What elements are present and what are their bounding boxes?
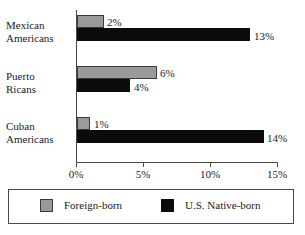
legend-label-foreign-born: Foreign-born — [64, 199, 122, 212]
legend-entry-native-born: U.S. Native-born — [161, 199, 260, 212]
category-label-line-1: Mexican — [6, 19, 74, 32]
bar-cuban-americans-native-born — [77, 130, 264, 143]
bar-puerto-ricans-foreign-born — [77, 66, 157, 79]
bar-value-cuban-americans-native-born: 14% — [267, 132, 287, 144]
x-tick-label-3: 15% — [267, 168, 287, 180]
bar-mexican-americans-foreign-born — [77, 15, 104, 28]
bar-cuban-americans-foreign-born — [77, 117, 90, 130]
x-tick-0 — [76, 162, 77, 167]
x-axis-line — [76, 162, 278, 163]
x-tick-label-1: 5% — [136, 168, 151, 180]
bar-value-puerto-ricans-foreign-born: 6% — [160, 67, 175, 79]
x-tick-1 — [143, 162, 144, 167]
category-label-mexican-americans: Mexican Americans — [6, 19, 74, 44]
x-tick-label-2: 10% — [200, 168, 220, 180]
category-label-line-1: Cuban — [6, 120, 74, 133]
x-tick-label-0: 0% — [69, 168, 84, 180]
category-label-line-2: Americans — [6, 32, 74, 45]
bar-puerto-ricans-native-born — [77, 79, 130, 92]
gray-swatch-icon — [40, 199, 53, 212]
category-label-puerto-ricans: Puerto Ricans — [6, 70, 74, 95]
legend-entry-foreign-born: Foreign-born — [40, 199, 122, 212]
category-label-cuban-americans: Cuban Americans — [6, 120, 74, 145]
x-tick-2 — [210, 162, 211, 167]
black-swatch-icon — [161, 199, 174, 212]
x-tick-3 — [277, 162, 278, 167]
chart-legend: Foreign-born U.S. Native-born — [8, 189, 294, 224]
bar-value-mexican-americans-foreign-born: 2% — [107, 16, 122, 28]
bar-chart: 0% 5% 10% 15% Mexican Americans Puerto R… — [0, 0, 305, 182]
bar-value-cuban-americans-foreign-born: 1% — [94, 118, 109, 130]
category-label-line-2: Ricans — [6, 83, 74, 96]
bar-mexican-americans-native-born — [77, 28, 250, 41]
category-label-line-2: Americans — [6, 133, 74, 146]
bar-value-puerto-ricans-native-born: 4% — [134, 81, 149, 93]
bar-value-mexican-americans-native-born: 13% — [254, 30, 274, 42]
legend-label-native-born: U.S. Native-born — [185, 199, 260, 212]
category-label-line-1: Puerto — [6, 70, 74, 83]
